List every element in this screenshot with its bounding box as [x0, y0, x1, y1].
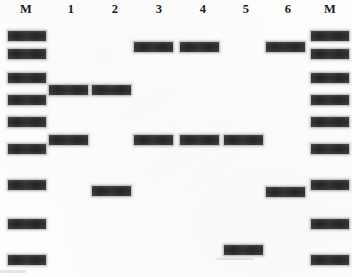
lane-label-lane-5: 5 — [235, 0, 257, 18]
lane-label-lane-1: 1 — [60, 0, 82, 18]
gel-electrophoresis-figure: M123456M — [0, 0, 352, 277]
lane-label-lane-4: 4 — [192, 0, 214, 18]
gel-band — [8, 49, 46, 59]
scan-artifact — [216, 258, 254, 260]
gel-band — [8, 31, 46, 41]
gel-band — [311, 144, 349, 154]
gel-band — [266, 187, 305, 197]
gel-band — [8, 95, 46, 105]
lane-label-lane-m-left: M — [15, 0, 37, 18]
gel-band — [8, 180, 46, 190]
lane-label-lane-m-right: M — [319, 0, 341, 18]
gel-band — [311, 73, 349, 83]
gel-band — [311, 49, 349, 59]
gel-band — [92, 85, 131, 95]
gel-band — [311, 180, 349, 190]
gel-band — [49, 135, 88, 145]
gel-band — [134, 135, 173, 145]
scan-artifact — [0, 270, 26, 273]
gel-band — [8, 73, 46, 83]
gel-band — [92, 186, 131, 196]
gel-band — [311, 219, 349, 229]
gel-band — [311, 117, 349, 127]
gel-band — [8, 219, 46, 229]
gel-band — [311, 255, 349, 265]
gel-band — [266, 42, 305, 52]
gel-band — [180, 42, 219, 52]
gel-band — [311, 95, 349, 105]
gel-band — [180, 135, 219, 145]
lane-label-lane-2: 2 — [104, 0, 126, 18]
gel-band — [49, 85, 88, 95]
lane-label-lane-6: 6 — [277, 0, 299, 18]
gel-band — [311, 31, 349, 41]
gel-band — [8, 144, 46, 154]
gel-band — [8, 255, 46, 265]
gel-band — [224, 245, 263, 255]
gel-band — [134, 42, 173, 52]
gel-band — [224, 135, 263, 145]
lane-label-lane-3: 3 — [148, 0, 170, 18]
gel-band — [8, 117, 46, 127]
